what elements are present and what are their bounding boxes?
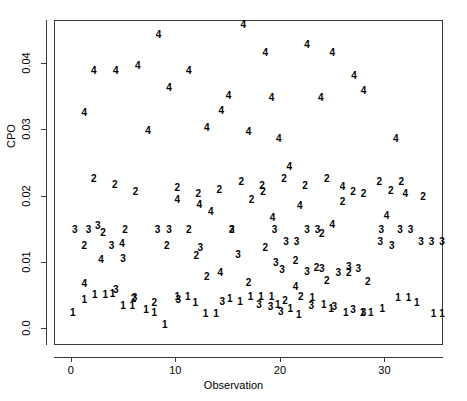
data-point-2: 2 — [293, 256, 299, 266]
data-point-1: 1 — [175, 292, 181, 302]
data-point-2: 2 — [238, 177, 244, 187]
data-point-4: 4 — [329, 48, 335, 58]
data-point-1: 1 — [288, 304, 294, 314]
data-point-1: 1 — [310, 293, 316, 303]
data-point-2: 2 — [350, 187, 356, 197]
data-point-4: 4 — [175, 195, 181, 205]
data-point-2: 2 — [196, 189, 202, 199]
data-point-1: 1 — [360, 308, 366, 318]
data-point-1: 1 — [92, 290, 98, 300]
data-point-4: 4 — [318, 93, 324, 103]
data-point-3: 3 — [304, 267, 310, 277]
data-point-3: 3 — [315, 225, 321, 235]
data-point-4: 4 — [91, 66, 97, 76]
data-point-3: 3 — [283, 237, 289, 247]
y-tick-label: 0.04 — [20, 48, 32, 78]
data-point-1: 1 — [380, 304, 386, 314]
data-point-1: 1 — [185, 292, 191, 302]
data-point-1: 1 — [70, 308, 76, 318]
data-point-2: 2 — [133, 187, 139, 197]
data-point-2: 2 — [100, 228, 106, 238]
data-point-1: 1 — [328, 304, 334, 314]
data-point-2: 2 — [324, 174, 330, 184]
data-point-3: 3 — [268, 302, 274, 312]
data-point-3: 3 — [439, 237, 445, 247]
data-point-4: 4 — [241, 20, 247, 30]
data-point-1: 1 — [143, 305, 149, 315]
data-point-3: 3 — [229, 225, 235, 235]
data-point-3: 3 — [379, 225, 385, 235]
data-point-2: 2 — [193, 251, 199, 261]
data-point-1: 1 — [321, 300, 327, 310]
data-point-3: 3 — [273, 258, 279, 268]
data-point-2: 2 — [365, 277, 371, 287]
y-tick — [41, 262, 46, 263]
data-point-4: 4 — [204, 123, 210, 133]
data-point-4: 4 — [287, 162, 293, 172]
data-point-1: 1 — [213, 309, 219, 319]
data-point-4: 4 — [403, 189, 409, 199]
data-point-4: 4 — [226, 91, 232, 101]
data-point-1: 1 — [343, 308, 349, 318]
data-point-1: 1 — [110, 289, 116, 299]
data-point-3: 3 — [166, 225, 172, 235]
data-point-3: 3 — [279, 265, 285, 275]
data-point-1: 1 — [237, 297, 243, 307]
data-point-1: 1 — [227, 294, 233, 304]
data-point-4: 4 — [135, 61, 141, 71]
data-point-1: 1 — [439, 309, 445, 319]
data-point-2: 2 — [398, 177, 404, 187]
x-tick — [175, 357, 176, 362]
data-point-1: 1 — [258, 292, 264, 302]
data-point-2: 2 — [420, 192, 426, 202]
data-point-3: 3 — [346, 262, 352, 272]
data-point-2: 2 — [262, 243, 268, 253]
x-tick-label: 20 — [274, 364, 286, 376]
y-tick — [41, 63, 46, 64]
data-point-2: 2 — [260, 187, 266, 197]
data-point-2: 2 — [298, 292, 304, 302]
data-point-2: 2 — [152, 298, 158, 308]
data-point-2: 2 — [361, 189, 367, 199]
data-point-2: 2 — [175, 183, 181, 193]
data-point-2: 2 — [302, 181, 308, 191]
data-point-3: 3 — [220, 297, 226, 307]
data-point-1: 1 — [269, 292, 275, 302]
x-tick-label: 30 — [378, 364, 390, 376]
data-point-1: 1 — [368, 308, 374, 318]
data-point-2: 2 — [216, 185, 222, 195]
data-point-3: 3 — [304, 225, 310, 235]
data-point-4: 4 — [262, 48, 268, 58]
data-point-4: 4 — [393, 134, 399, 144]
x-axis-title: Observation — [0, 379, 467, 391]
data-point-4: 4 — [82, 279, 88, 289]
data-point-3: 3 — [256, 300, 262, 310]
data-point-3: 3 — [378, 237, 384, 247]
data-point-4: 4 — [329, 220, 335, 230]
data-point-4: 4 — [166, 83, 172, 93]
data-point-3: 3 — [389, 241, 395, 251]
data-point-1: 1 — [203, 309, 209, 319]
data-point-2: 2 — [186, 225, 192, 235]
data-point-1: 1 — [82, 295, 88, 305]
x-tick-label: 0 — [68, 364, 74, 376]
data-point-1: 1 — [102, 290, 108, 300]
data-point-3: 3 — [319, 264, 325, 274]
x-tick — [71, 357, 72, 362]
data-point-2: 2 — [82, 241, 88, 251]
data-point-3: 3 — [408, 225, 414, 235]
data-point-1: 1 — [296, 310, 302, 320]
data-point-2: 2 — [164, 241, 170, 251]
data-point-1: 1 — [395, 293, 401, 303]
data-point-4: 4 — [304, 40, 310, 50]
y-tick — [41, 328, 46, 329]
y-tick — [41, 196, 46, 197]
data-point-3: 3 — [198, 243, 204, 253]
data-point-2: 2 — [246, 278, 252, 288]
data-point-2: 2 — [122, 225, 128, 235]
data-point-4: 4 — [351, 71, 357, 81]
plot-data-area: 4444444444444444444444444444444444444222… — [54, 20, 443, 345]
data-point-4: 4 — [270, 213, 276, 223]
data-point-3: 3 — [294, 237, 300, 247]
data-point-2: 2 — [340, 197, 346, 207]
